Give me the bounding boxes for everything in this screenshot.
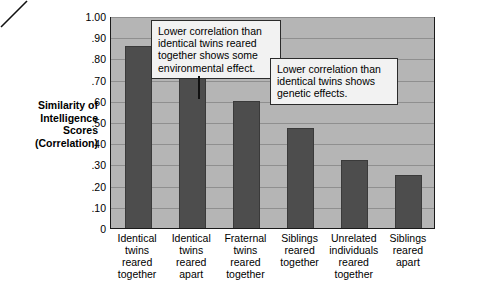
y-axis-tick-label: .20 xyxy=(72,182,106,192)
x-axis-tick-label-line: together xyxy=(218,268,272,280)
x-axis-tick-label-line: Identical xyxy=(110,232,164,244)
x-axis-tick-label-line: reared xyxy=(381,244,435,256)
x-axis-tick-label: Siblingsrearedapart xyxy=(381,232,435,268)
y-axis-tick-label: .80 xyxy=(72,54,106,64)
annotation-environmental-effect: Lower correlation than identical twins r… xyxy=(151,20,281,79)
x-axis-tick-label: Identicaltwinsrearedapart xyxy=(164,232,218,280)
gridline xyxy=(111,123,434,124)
x-axis-tick-label-line: Siblings xyxy=(381,232,435,244)
gridline xyxy=(111,144,434,145)
x-axis-tick-label-line: reared xyxy=(164,256,218,268)
x-axis-tick-label: Fraternaltwinsrearedtogether xyxy=(218,232,272,280)
x-axis-tick-label-line: together xyxy=(327,268,381,280)
x-axis-tick-label-line: twins xyxy=(164,244,218,256)
bar xyxy=(287,128,314,228)
gridline xyxy=(111,187,434,188)
y-axis-tick-label: .70 xyxy=(72,76,106,86)
annotation-genetic-effects: Lower correlation than identical twins s… xyxy=(270,58,398,105)
gridline xyxy=(111,165,434,166)
bar xyxy=(395,175,422,228)
x-axis-tick-label-line: individuals xyxy=(327,244,381,256)
annotation-leader-line-environmental xyxy=(198,76,200,99)
x-axis-tick-label-line: twins xyxy=(218,244,272,256)
x-axis-tick-label-line: Siblings xyxy=(273,232,327,244)
x-axis-tick-label-line: reared xyxy=(110,256,164,268)
y-axis-tick-label: .40 xyxy=(72,139,106,149)
bar xyxy=(233,101,260,228)
annotation-leader-line-genetic xyxy=(0,0,28,28)
x-axis-tick-label-line: reared xyxy=(218,256,272,268)
x-axis-tick-label-line: apart xyxy=(381,256,435,268)
x-axis-tick-label-line: twins xyxy=(110,244,164,256)
y-axis-tick-label: 0 xyxy=(72,224,106,234)
y-axis-tick-label: .10 xyxy=(72,203,106,213)
x-axis-tick-label-line: together xyxy=(110,268,164,280)
x-axis-tick-label-line: Identical xyxy=(164,232,218,244)
x-axis-tick-label-line: Unrelated xyxy=(327,232,381,244)
x-axis-tick-label-line: apart xyxy=(164,268,218,280)
x-axis-tick-label-line: reared xyxy=(273,244,327,256)
y-axis-tick-label: .30 xyxy=(72,160,106,170)
y-axis-tick-label: .90 xyxy=(72,33,106,43)
x-axis-tick-label-line: together xyxy=(273,256,327,268)
x-axis-tick-labels: IdenticaltwinsrearedtogetherIdenticaltwi… xyxy=(110,232,435,292)
y-axis-tick-label: .50 xyxy=(72,118,106,128)
x-axis-tick-label: Siblingsrearedtogether xyxy=(273,232,327,268)
bar-chart-figure: Similarity of Intelligence Scores (Corre… xyxy=(0,0,481,294)
y-axis-tick-label: 1.00 xyxy=(72,12,106,22)
x-axis-tick-label: Identicaltwinsrearedtogether xyxy=(110,232,164,280)
bar xyxy=(341,160,368,228)
bar xyxy=(125,46,152,228)
gridline xyxy=(111,17,434,18)
bar xyxy=(179,73,206,228)
y-axis-tick-label: .60 xyxy=(72,97,106,107)
x-axis-tick-label: Unrelatedindividualsrearedtogether xyxy=(327,232,381,280)
x-axis-tick-label-line: Fraternal xyxy=(218,232,272,244)
y-axis-tick-labels: 1.00.90.80.70.60.50.40.30.20.100 xyxy=(68,17,106,229)
x-axis-tick-label-line: reared xyxy=(327,256,381,268)
gridline xyxy=(111,208,434,209)
